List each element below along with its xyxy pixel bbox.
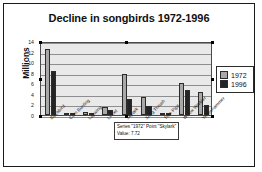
- bar-1972-willow-warbler[interactable]: [179, 83, 184, 115]
- resize-handle-3[interactable]: [39, 78, 42, 81]
- y-tick-6: 6: [20, 81, 34, 87]
- y-tick-0: 0: [20, 113, 34, 119]
- bar-1972-skylark[interactable]: [122, 74, 127, 115]
- bar-1996-blackbird[interactable]: [51, 71, 56, 115]
- bar-series-container[interactable]: [41, 43, 211, 115]
- plot-area[interactable]: [40, 42, 212, 116]
- legend-swatch-1996: [220, 80, 228, 88]
- data-point-tooltip: Series "1972" Point "Skylark" Value: 7.7…: [114, 122, 179, 140]
- resize-handle-2[interactable]: [211, 41, 214, 44]
- legend-label-1972: 1972: [231, 72, 247, 79]
- y-tick-14: 14: [20, 39, 34, 45]
- chart-legend[interactable]: 1972 1996: [216, 66, 254, 93]
- y-tick-12: 12: [20, 50, 34, 56]
- legend-item-1972[interactable]: 1972: [220, 71, 250, 79]
- y-axis-tick-labels: 02468101214: [18, 42, 34, 116]
- legend-label-1996: 1996: [231, 81, 247, 88]
- bar-1972-blackbird[interactable]: [45, 49, 50, 115]
- chart-frame: Decline in songbirds 1972-1996 Millions …: [3, 3, 255, 167]
- y-tick-4: 4: [20, 92, 34, 98]
- y-tick-2: 2: [20, 102, 34, 108]
- y-tick-10: 10: [20, 60, 34, 66]
- legend-item-1996[interactable]: 1996: [220, 80, 250, 88]
- chart-title: Decline in songbirds 1972-1996: [4, 12, 254, 24]
- resize-handle-1[interactable]: [125, 41, 128, 44]
- y-tick-8: 8: [20, 71, 34, 77]
- resize-handle-4[interactable]: [211, 78, 214, 81]
- tooltip-value: Value: 7.72: [117, 131, 176, 138]
- tooltip-series-point: Series "1972" Point "Skylark": [117, 124, 176, 131]
- bar-1972-song-thrush[interactable]: [141, 97, 146, 116]
- resize-handle-0[interactable]: [39, 41, 42, 44]
- legend-swatch-1972: [220, 71, 228, 79]
- plot-area-wrapper[interactable]: [40, 42, 212, 116]
- bar-1972-linnet[interactable]: [102, 107, 107, 115]
